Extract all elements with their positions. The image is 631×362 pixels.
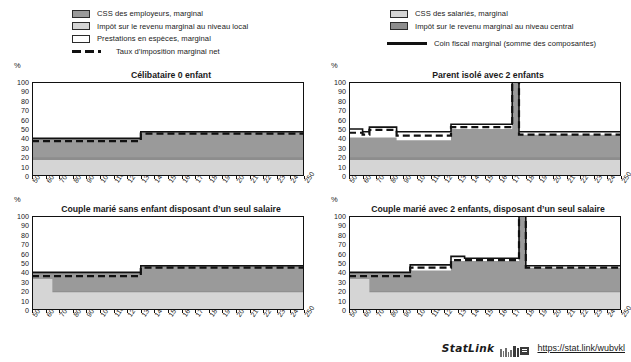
swatch-white-icon bbox=[72, 35, 90, 43]
legend-item-label: CSS des salariés, marginal bbox=[415, 9, 508, 18]
y-axis-unit: % bbox=[14, 196, 21, 204]
plot-area: 1009080706050403020100506070809010011012… bbox=[32, 82, 304, 176]
y-axis-label: 90 bbox=[15, 222, 29, 229]
legend-item-label: Impôt sur le revenu marginal au niveau c… bbox=[415, 22, 573, 31]
y-axis-label: 30 bbox=[15, 278, 29, 285]
panel-title: Couple marié avec 2 enfants, disposant d… bbox=[347, 204, 629, 214]
plot-area: 1009080706050403020100506070809010011012… bbox=[349, 216, 621, 310]
legend-item-impot-central: Impôt sur le revenu marginal au niveau c… bbox=[390, 21, 596, 32]
y-axis-unit: % bbox=[14, 62, 21, 70]
legend-item-taux-net: Taux d’imposition marginal net bbox=[72, 46, 248, 57]
legend-item-prestations: Prestations en espèces, marginal bbox=[72, 33, 248, 44]
plot-area: 1009080706050403020100506070809010011012… bbox=[349, 82, 621, 176]
y-axis-label: 0 bbox=[15, 307, 29, 314]
x-axis-label: 250 bbox=[303, 304, 315, 318]
y-axis-label: 20 bbox=[15, 154, 29, 161]
y-axis-label: 60 bbox=[15, 116, 29, 123]
legend-column-left: CSS des employeurs, marginalImpôt sur le… bbox=[72, 8, 248, 58]
y-axis-label: 10 bbox=[15, 297, 29, 304]
legend-item-label: Impôt sur le revenu marginal au niveau l… bbox=[97, 22, 248, 31]
legend-item-impot-local: Impôt sur le revenu marginal au niveau l… bbox=[72, 21, 248, 32]
y-axis-label: 70 bbox=[15, 107, 29, 114]
y-axis-label: 80 bbox=[15, 97, 29, 104]
panel-title: Parent isolé avec 2 enfants bbox=[347, 70, 629, 80]
solid-line-icon bbox=[387, 42, 427, 45]
y-axis-label: 30 bbox=[15, 144, 29, 151]
y-axis-label: 70 bbox=[15, 241, 29, 248]
legend-item-label: Prestations en espèces, marginal bbox=[97, 34, 211, 43]
y-axis-label: 50 bbox=[15, 126, 29, 133]
y-axis-label: 10 bbox=[332, 297, 346, 304]
y-axis-label: 50 bbox=[332, 260, 346, 267]
x-axis-label: 250 bbox=[620, 170, 631, 184]
y-axis-label: 30 bbox=[332, 278, 346, 285]
y-axis-label: 90 bbox=[332, 222, 346, 229]
y-axis-label: 100 bbox=[15, 213, 29, 220]
y-axis-label: 0 bbox=[332, 307, 346, 314]
y-axis-label: 20 bbox=[15, 288, 29, 295]
y-axis-label: 50 bbox=[332, 126, 346, 133]
y-axis-label: 10 bbox=[15, 163, 29, 170]
y-axis-label: 40 bbox=[15, 135, 29, 142]
legend-item-label: Coin fiscal marginal (somme des composan… bbox=[434, 39, 596, 48]
x-axis-label: 250 bbox=[620, 304, 631, 318]
y-axis-label: 100 bbox=[15, 79, 29, 86]
swatch-light-icon bbox=[72, 22, 90, 30]
y-axis-label: 40 bbox=[332, 135, 346, 142]
y-axis-label: 20 bbox=[332, 154, 346, 161]
legend-item-css-employeurs: CSS des employeurs, marginal bbox=[72, 8, 248, 19]
y-axis-unit: % bbox=[331, 62, 338, 70]
y-axis-label: 0 bbox=[15, 173, 29, 180]
y-axis-label: 70 bbox=[332, 107, 346, 114]
legend-item-css-salaries: CSS des salariés, marginal bbox=[390, 8, 596, 19]
plot-frame bbox=[32, 216, 304, 310]
y-axis-label: 70 bbox=[332, 241, 346, 248]
x-axis-label: 250 bbox=[303, 170, 315, 184]
chart-legend: CSS des employeurs, marginalImpôt sur le… bbox=[0, 8, 631, 60]
plot-frame bbox=[349, 82, 621, 176]
barcode-icon bbox=[500, 343, 530, 354]
statlink-label: StatLink bbox=[442, 342, 495, 354]
y-axis-label: 50 bbox=[15, 260, 29, 267]
legend-column-right: CSS des salariés, marginalImpôt sur le r… bbox=[390, 8, 596, 50]
dashed-line-icon bbox=[91, 47, 109, 55]
plot-frame bbox=[349, 216, 621, 310]
y-axis-label: 0 bbox=[332, 173, 346, 180]
y-axis-label: 80 bbox=[332, 231, 346, 238]
panel-title: Célibataire 0 enfant bbox=[30, 70, 312, 80]
y-axis-unit: % bbox=[331, 196, 338, 204]
statlink-url-link[interactable]: https://stat.link/wubvkl bbox=[537, 343, 625, 353]
swatch-dark-icon bbox=[72, 10, 90, 18]
legend-item-label: Taux d’imposition marginal net bbox=[116, 47, 220, 56]
y-axis-label: 60 bbox=[332, 116, 346, 123]
swatch-mid-icon bbox=[390, 22, 408, 30]
y-axis-label: 90 bbox=[332, 88, 346, 95]
y-axis-label: 60 bbox=[332, 250, 346, 257]
legend-item-coin-fiscal: Coin fiscal marginal (somme des composan… bbox=[390, 38, 596, 49]
y-axis-label: 60 bbox=[15, 250, 29, 257]
plot-frame bbox=[32, 82, 304, 176]
y-axis-label: 30 bbox=[332, 144, 346, 151]
swatch-light-icon bbox=[390, 10, 408, 18]
y-axis-label: 80 bbox=[332, 97, 346, 104]
y-axis-label: 100 bbox=[332, 79, 346, 86]
y-axis-label: 90 bbox=[15, 88, 29, 95]
y-axis-label: 10 bbox=[332, 163, 346, 170]
y-axis-label: 80 bbox=[15, 231, 29, 238]
legend-item-label: CSS des employeurs, marginal bbox=[97, 9, 203, 18]
y-axis-label: 20 bbox=[332, 288, 346, 295]
y-axis-label: 40 bbox=[15, 269, 29, 276]
y-axis-label: 40 bbox=[332, 269, 346, 276]
plot-area: 1009080706050403020100506070809010011012… bbox=[32, 216, 304, 310]
y-axis-label: 100 bbox=[332, 213, 346, 220]
panel-title: Couple marié sans enfant disposant d’un … bbox=[30, 204, 312, 214]
statlink-footer: StatLink https://stat.link/wubvkl bbox=[0, 340, 631, 356]
